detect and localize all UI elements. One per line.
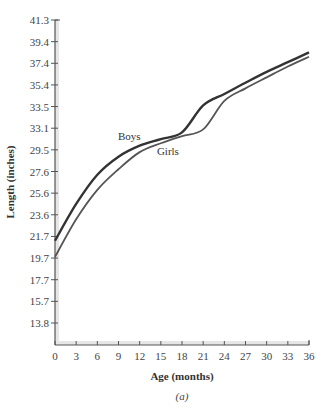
y-tick-label: 13.8 [30,317,50,329]
y-tick-label: 37.4 [30,57,50,69]
plot-lines [55,52,309,257]
y-axis-ticks: 13.815.717.719.721.723.625.627.629.533.1… [30,14,58,329]
x-tick-label: 3 [73,350,79,362]
x-axis-label: Age (months) [150,370,214,383]
x-tick-label: 15 [155,350,167,362]
line-boys [55,52,309,240]
y-tick-label: 27.6 [30,166,50,178]
x-tick-label: 27 [240,350,252,362]
x-tick-label: 12 [134,350,145,362]
y-tick-label: 17.7 [30,274,50,286]
y-tick-label: 35.4 [30,79,50,91]
x-tick-label: 30 [261,350,273,362]
x-tick-label: 18 [177,350,189,362]
y-tick-label: 15.7 [30,295,50,307]
line-girls [55,57,309,257]
series-label-girls: Girls [157,145,179,157]
y-tick-label: 29.5 [30,144,50,156]
x-tick-label: 0 [52,350,58,362]
series-label-boys: Boys [118,130,141,142]
y-tick-label: 23.6 [30,209,50,221]
y-axis-label: Length (inches) [4,145,17,218]
y-tick-label: 33.1 [30,122,49,134]
growth-chart: 13.815.717.719.721.723.625.627.629.533.1… [0,0,329,409]
y-tick-label: 39.4 [30,36,50,48]
x-tick-label: 21 [198,350,209,362]
x-tick-label: 33 [282,350,294,362]
x-tick-label: 6 [95,350,101,362]
y-tick-label: 19.7 [30,252,50,264]
y-tick-label: 25.6 [30,187,50,199]
x-tick-label: 24 [219,350,231,362]
x-tick-label: 9 [116,350,122,362]
y-tick-label: 33.5 [30,101,50,113]
figure-caption: (a) [176,390,189,403]
y-tick-label: 41.3 [30,14,50,26]
y-tick-label: 21.7 [30,230,50,242]
x-tick-label: 36 [304,350,316,362]
